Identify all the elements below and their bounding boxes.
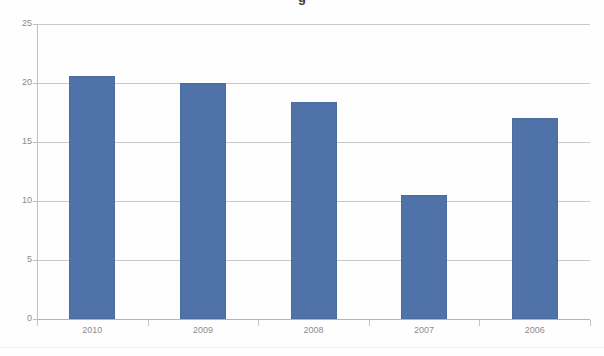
- y-axis-tick-mark: [33, 24, 38, 25]
- bar-chart: g 0510152025 20102009200820072006: [0, 0, 604, 356]
- x-axis-tick-mark: [479, 320, 480, 326]
- y-axis-tick-label: 25: [2, 19, 32, 28]
- y-axis-ticks: 0510152025: [0, 0, 32, 356]
- y-axis-tick-label: 5: [2, 255, 32, 264]
- bar: [291, 102, 337, 319]
- x-axis-tick-label: 2006: [505, 325, 565, 336]
- bar: [69, 76, 115, 319]
- y-axis-tick-mark: [33, 319, 38, 320]
- y-axis-tick-label: 10: [2, 196, 32, 205]
- x-axis-tick-mark: [258, 320, 259, 326]
- x-axis-tick-mark: [37, 320, 38, 326]
- gridline: [37, 83, 590, 84]
- y-axis-tick-label: 15: [2, 137, 32, 146]
- y-axis-tick-label: 0: [2, 314, 32, 323]
- x-axis-tick-mark: [590, 320, 591, 326]
- y-axis-tick-mark: [33, 83, 38, 84]
- y-axis-tick-mark: [33, 201, 38, 202]
- x-axis-tick-mark: [369, 320, 370, 326]
- bar: [401, 195, 447, 319]
- x-axis-tick-label: 2009: [173, 325, 233, 336]
- x-axis-tick-label: 2007: [394, 325, 454, 336]
- image-bottom-edge: [0, 347, 604, 348]
- bar: [512, 118, 558, 319]
- y-axis-tick-mark: [33, 260, 38, 261]
- x-axis-tick-mark: [148, 320, 149, 326]
- plot-area: [37, 24, 590, 319]
- x-axis-tick-label: 2008: [284, 325, 344, 336]
- y-axis-tick-mark: [33, 142, 38, 143]
- y-axis-tick-label: 20: [2, 78, 32, 87]
- chart-title-fragment: g: [0, 0, 604, 14]
- gridline: [37, 319, 590, 320]
- gridline: [37, 24, 590, 25]
- chart-title-text: g: [298, 0, 306, 4]
- x-axis-tick-label: 2010: [62, 325, 122, 336]
- bar: [180, 83, 226, 319]
